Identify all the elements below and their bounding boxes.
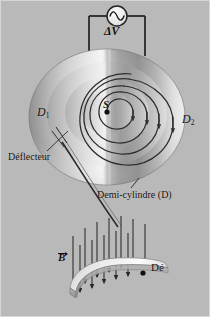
deflector-label: Déflecteur bbox=[8, 152, 50, 162]
half-cylinder-label: Demi-cylindre (D) bbox=[97, 190, 172, 200]
dee-left-subscript: 1 bbox=[46, 111, 50, 120]
beam-exit-dot-icon bbox=[140, 270, 145, 275]
dee-right-subscript: 2 bbox=[191, 118, 195, 127]
dee-left-letter: D bbox=[37, 105, 46, 119]
magnetic-field-label: B bbox=[58, 252, 65, 263]
dee-plate-label: Dé bbox=[151, 262, 164, 273]
dee-left-label: D1 bbox=[37, 106, 49, 120]
voltage-label: ΔV bbox=[104, 25, 119, 37]
source-label: S bbox=[103, 99, 109, 110]
dee-right-label: D2 bbox=[182, 113, 194, 127]
ac-source-icon bbox=[107, 6, 127, 26]
dee-right-letter: D bbox=[182, 112, 191, 126]
particle-source-dot-icon bbox=[104, 109, 109, 114]
cyclotron-disc bbox=[29, 49, 185, 185]
cyclotron-figure: ΔV S D1 D2 Déflecteur Demi-cylindre (D) … bbox=[0, 0, 210, 317]
